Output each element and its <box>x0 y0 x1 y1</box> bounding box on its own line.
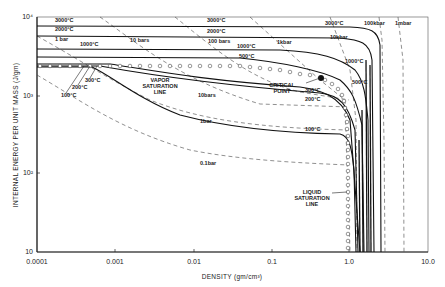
svg-text:1 bar: 1 bar <box>55 36 69 42</box>
y-axis-label: INTERNAL ENERGY PER UNIT MASS (J/gm) <box>12 63 20 207</box>
svg-text:100kbar: 100kbar <box>364 20 386 26</box>
svg-text:2000°C: 2000°C <box>55 26 73 32</box>
plot-frame <box>37 17 428 252</box>
svg-text:200°C: 200°C <box>305 96 320 102</box>
svg-text:10 bars: 10 bars <box>130 37 149 43</box>
isobar-1kbar <box>250 17 350 252</box>
annotations: VAPORSATURATIONLINE CRITICALPOINT LIQUID… <box>142 77 329 207</box>
svg-text:10.0: 10.0 <box>421 258 435 265</box>
svg-text:LINE: LINE <box>306 201 319 207</box>
critical-point-marker <box>318 75 324 81</box>
isobar-10kbar <box>330 17 357 252</box>
svg-text:0.1: 0.1 <box>267 258 277 265</box>
isotherm-100C <box>37 67 356 252</box>
svg-text:500°C: 500°C <box>239 53 254 59</box>
svg-text:LINE: LINE <box>154 89 167 95</box>
x-tick-labels: 0.0001 0.001 0.01 0.1 1.0 10.0 <box>26 258 435 265</box>
svg-text:10bars: 10bars <box>198 92 216 98</box>
svg-text:3000°C: 3000°C <box>207 17 225 23</box>
svg-text:0.001: 0.001 <box>106 258 124 265</box>
svg-text:0.1bar: 0.1bar <box>200 160 217 166</box>
svg-text:3000°C: 3000°C <box>325 20 343 26</box>
svg-text:300°C: 300°C <box>305 87 320 93</box>
svg-text:1mbar: 1mbar <box>395 20 412 26</box>
svg-text:100°C: 100°C <box>61 92 76 98</box>
svg-text:1bar: 1bar <box>200 118 212 124</box>
isobar-1mbar <box>398 17 404 252</box>
svg-text:10⁴: 10⁴ <box>22 13 33 20</box>
svg-text:1.0: 1.0 <box>344 258 354 265</box>
isotherm-2000C <box>37 36 374 252</box>
y-tick-labels: 10 10² 10³ 10⁴ <box>22 13 33 255</box>
svg-text:100°C: 100°C <box>305 126 320 132</box>
svg-text:100 bars: 100 bars <box>208 38 230 44</box>
isotherms <box>37 26 381 252</box>
svg-text:1000°C: 1000°C <box>237 43 255 49</box>
svg-text:300°C: 300°C <box>85 77 100 83</box>
svg-text:1kbar: 1kbar <box>277 39 293 45</box>
isotherm-3000C <box>37 26 381 252</box>
svg-text:500°C: 500°C <box>352 79 367 85</box>
chart: 0.0001 0.001 0.01 0.1 1.0 10.0 10 10² 10… <box>0 0 445 287</box>
svg-text:3000°C: 3000°C <box>55 17 73 23</box>
svg-text:10²: 10² <box>23 169 34 176</box>
svg-text:2000°C: 2000°C <box>207 28 225 34</box>
svg-text:10: 10 <box>25 248 33 255</box>
svg-text:1000°C: 1000°C <box>345 58 363 64</box>
svg-text:0.01: 0.01 <box>187 258 201 265</box>
svg-text:10kbar: 10kbar <box>330 34 349 40</box>
svg-text:0.0001: 0.0001 <box>26 258 48 265</box>
svg-text:POINT: POINT <box>274 88 291 94</box>
svg-text:200°C: 200°C <box>72 84 87 90</box>
x-axis-label: DENSITY (gm/cm³) <box>202 273 263 281</box>
svg-text:10³: 10³ <box>23 92 34 99</box>
svg-text:1000°C: 1000°C <box>80 41 98 47</box>
